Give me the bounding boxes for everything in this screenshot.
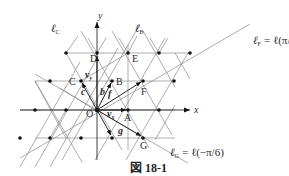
line-label-lG: ℓG= ℓ(−π/6): [170, 146, 224, 159]
point-label-B: B: [116, 76, 123, 87]
point-label-G: G: [140, 140, 147, 151]
vector-label-g: g: [117, 125, 123, 136]
point-label-C: C: [69, 76, 76, 87]
axes: [20, 22, 190, 160]
point-label-F: F: [141, 86, 147, 97]
figure-caption: 図 18-1: [130, 161, 167, 175]
line-label-lF: ℓF= ℓ(π/6): [253, 34, 289, 47]
y-axis-label: y: [97, 10, 103, 21]
point-label-E: E: [132, 53, 138, 64]
point-label-O: O: [86, 108, 93, 119]
vector-label-vy: vy: [85, 69, 92, 81]
line-label-lC: ℓC: [51, 22, 60, 35]
line-label-lB: ℓB: [135, 22, 144, 35]
x-axis-label: x: [193, 104, 199, 115]
vector-label-f: f: [108, 88, 113, 99]
vector-label-b: b: [100, 86, 105, 97]
point-label-D: D: [90, 53, 97, 64]
point-label-A: A: [124, 112, 132, 123]
vector-label-c: c: [81, 86, 86, 97]
lattice-diagram: x y D E C B F O A G vy vx b c f g ℓC ℓB …: [0, 0, 289, 176]
